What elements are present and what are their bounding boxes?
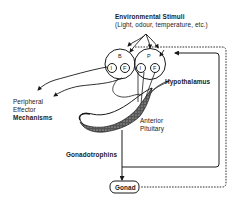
diagram-canvas: Environmental Stimuli (Light, odour, tem…	[0, 0, 240, 201]
environmental-stimuli-subtitle: (Light, odour, temperature, etc.)	[115, 21, 208, 28]
brain-p-inner-i: I	[140, 65, 142, 72]
environmental-stimuli-title: Environmental Stimuli	[115, 13, 185, 20]
peripheral-label: Peripheral	[13, 98, 43, 105]
gonadotrophins-label: Gonadotrophins	[66, 151, 117, 158]
pituitary-label: Pituitary	[140, 125, 164, 132]
brain-b-inner-i: I	[111, 65, 113, 72]
brain-p-inner-f: F	[153, 65, 156, 72]
hypothalamus-label: Hypothalamus	[165, 78, 210, 85]
gonad-label: Gonad	[115, 184, 136, 191]
anterior-label: Anterior	[140, 117, 163, 124]
mechanisms-label: Mechanisms	[13, 114, 52, 121]
brain-b-label: B	[118, 53, 122, 60]
brain-b-inner-f: F	[123, 65, 126, 72]
effector-label: Effector	[13, 106, 36, 113]
brain-p-label: P	[147, 53, 151, 60]
